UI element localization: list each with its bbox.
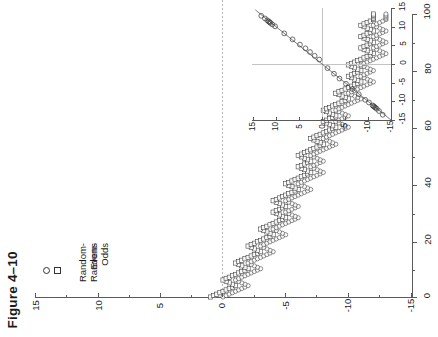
inset-x-tick [299,117,300,120]
inset-x-tick [345,117,346,120]
value-tick-label: -5 [270,300,300,311]
value-tick-label: 10 [83,300,113,311]
index-tick-minor [413,157,415,158]
inset-x-tick [322,117,323,120]
figure-root: 15 10 5 0 -5 -10 -15 100 80 60 40 20 0 R… [0,0,438,337]
value-tick-minus15 [411,293,412,297]
index-tick-minor [413,270,415,271]
value-tick-minor [191,295,192,297]
inset-x-label: 10 [265,122,287,131]
index-tick-label: 80 [414,63,438,74]
legend: Random-Evens Random-Odds [41,196,71,274]
index-tick-minor [413,43,415,44]
inset-y-label: -5 [393,77,413,86]
inset-x-tick [276,117,277,120]
inset-x-label: 15 [242,122,264,131]
value-tick-label: 15 [20,300,50,311]
index-tick-label: 0 [414,290,438,301]
index-tick-label: 40 [414,177,438,188]
value-tick-minor [379,295,380,297]
value-tick-0 [222,293,223,297]
value-tick-minor [66,295,67,297]
value-tick-label: 0 [207,300,237,311]
index-tick-label: 20 [414,234,438,245]
value-tick-label: -15 [396,300,426,311]
legend-item-random-odds: Random-Odds [52,196,66,274]
inset-qq-plot: 15 10 5 0 -5 -10 -15 15 10 5 0 -5 -10 -1… [236,2,404,136]
inset-x-tick [253,117,254,120]
value-tick-5 [160,293,161,297]
value-tick-minor [316,295,317,297]
value-tick-minor [254,295,255,297]
value-tick-minus5 [285,293,286,297]
square-marker-icon [54,267,61,274]
inset-x-label: -5 [334,122,356,131]
inset-y-label: 5 [393,39,413,48]
inset-x-label: 0 [311,122,333,131]
inset-y-label: -10 [393,95,413,104]
inset-plot-area [236,2,404,136]
value-tick-minus10 [348,293,349,297]
inset-y-label: 10 [393,21,413,30]
index-tick-label: 100 [414,6,438,17]
inset-x-label: 5 [288,122,310,131]
inset-y-label: -15 [393,114,413,123]
value-tick-15 [35,293,36,297]
value-tick-minor [129,295,130,297]
value-tick-label: -10 [333,300,363,311]
index-tick-minor [413,100,415,101]
figure-caption: Figure 4–10 [5,267,20,329]
circle-marker-icon [43,267,50,274]
index-tick-minor [413,214,415,215]
legend-label: Random-Odds [88,243,110,301]
inset-x-label: -10 [357,122,379,131]
value-tick-label: 5 [145,300,175,311]
index-tick-label: 60 [414,120,438,131]
inset-y-label: 0 [393,58,413,67]
inset-y-label: 15 [393,2,413,11]
